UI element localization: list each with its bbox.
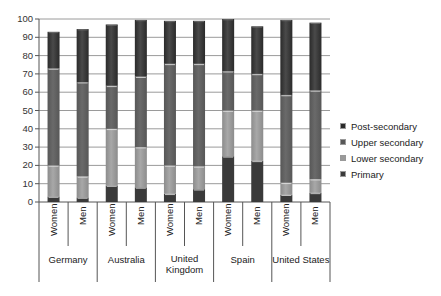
bar-segment-post-secondary <box>164 21 176 64</box>
legend-swatch-icon <box>340 139 346 145</box>
x-group-label: Germany <box>39 254 97 265</box>
bar-segment-primary <box>251 161 263 202</box>
bar-segment-post-secondary <box>106 24 118 85</box>
bar-segment-lower-secondary <box>309 179 321 193</box>
x-sub-label: Women <box>164 203 175 236</box>
stacked-bar-chart: 0102030405060708090100 WomenMenWomenMenW… <box>0 0 441 296</box>
y-tick-label: 20 <box>9 159 33 170</box>
bar-segment-primary <box>193 189 205 202</box>
bar-segment-upper-secondary <box>309 90 321 179</box>
bar-segment-primary <box>106 186 118 202</box>
y-tick-label: 30 <box>9 141 33 152</box>
bar-segment-upper-secondary <box>106 86 118 129</box>
x-sub-label: Women <box>106 203 117 236</box>
bar-segment-lower-secondary <box>193 166 205 189</box>
x-sub-label: Men <box>135 206 146 224</box>
bar-segment-lower-secondary <box>222 111 234 157</box>
y-tick-label: 90 <box>9 31 33 42</box>
bar-segment-lower-secondary <box>48 165 60 196</box>
legend-label: Post-secondary <box>351 121 417 132</box>
y-tick-label: 50 <box>9 105 33 116</box>
x-sub-label: Women <box>280 203 291 236</box>
bar-segment-upper-secondary <box>164 64 176 166</box>
legend-swatch-icon <box>340 123 346 129</box>
bar-segment-upper-secondary <box>48 68 60 165</box>
x-sub-label: Men <box>77 206 88 224</box>
x-group-label: UnitedKingdom <box>155 253 213 275</box>
legend-item-lower-secondary: Lower secondary <box>340 150 423 166</box>
bar-segment-post-secondary <box>48 32 60 69</box>
bar-segment-lower-secondary <box>135 147 147 187</box>
x-sub-label: Men <box>309 206 320 224</box>
legend-label: Upper secondary <box>351 137 423 148</box>
legend-item-upper-secondary: Upper secondary <box>340 134 423 150</box>
bar-segment-upper-secondary <box>77 82 89 176</box>
legend-item-post-secondary: Post-secondary <box>340 118 423 134</box>
y-tick-label: 0 <box>9 196 33 207</box>
x-group-label: Spain <box>214 254 272 265</box>
bar-segment-upper-secondary <box>251 74 263 111</box>
bar-segment-lower-secondary <box>251 111 263 161</box>
y-tick-label: 40 <box>9 123 33 134</box>
bar-segment-post-secondary <box>77 29 89 82</box>
bar-segment-post-secondary <box>222 19 234 71</box>
bar-segment-lower-secondary <box>77 176 89 197</box>
bar-segment-post-secondary <box>251 26 263 74</box>
bar-segment-upper-secondary <box>193 64 205 166</box>
bar-segment-primary <box>309 193 321 202</box>
bar-segment-lower-secondary <box>106 129 118 186</box>
y-tick-label: 10 <box>9 178 33 189</box>
x-sub-label: Women <box>48 203 59 236</box>
y-tick-label: 80 <box>9 50 33 61</box>
x-sub-label: Women <box>222 203 233 236</box>
bar-segment-post-secondary <box>309 23 321 91</box>
bar-segment-primary <box>135 187 147 202</box>
legend-label: Lower secondary <box>351 153 423 164</box>
bar-segment-upper-secondary <box>135 77 147 147</box>
legend-swatch-icon <box>340 155 346 161</box>
bar-segment-upper-secondary <box>280 95 292 183</box>
bar-segment-primary <box>222 156 234 202</box>
legend-item-primary: Primary <box>340 166 423 182</box>
y-tick-label: 70 <box>9 68 33 79</box>
x-sub-label: Men <box>251 206 262 224</box>
y-tick-label: 60 <box>9 86 33 97</box>
bar-segment-post-secondary <box>193 21 205 64</box>
y-tick-label: 100 <box>9 13 33 24</box>
bar-segment-lower-secondary <box>280 183 292 195</box>
bar-segment-upper-secondary <box>222 71 234 110</box>
legend-swatch-icon <box>340 171 346 177</box>
x-group-label: Australia <box>97 254 155 265</box>
legend: Post-secondary Upper secondary Lower sec… <box>340 118 423 182</box>
x-sub-label: Men <box>193 206 204 224</box>
x-group-label: United States <box>272 254 330 265</box>
bar-segment-post-secondary <box>280 20 292 95</box>
bar-segment-lower-secondary <box>164 165 176 193</box>
legend-label: Primary <box>351 169 384 180</box>
bar-segment-post-secondary <box>135 20 147 77</box>
